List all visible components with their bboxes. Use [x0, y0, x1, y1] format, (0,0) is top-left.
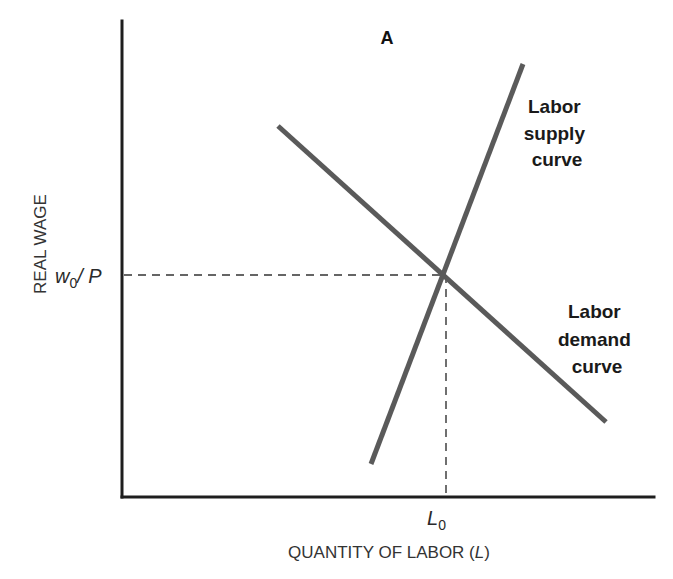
x-axis-label-close: ) [484, 543, 490, 562]
demand-label-line-1: Labor [568, 301, 621, 322]
labor-market-chart: A Labor supply curve Labor demand curve … [0, 0, 673, 579]
supply-label-line-3: curve [532, 149, 583, 170]
x-tick-subscript: 0 [438, 517, 446, 533]
demand-curve-label: Labor demand curve [558, 301, 636, 377]
x-axis-label-var: L [475, 543, 484, 562]
supply-label-line-1: Labor [528, 96, 581, 117]
x-axis-label: QUANTITY OF LABOR (L) [288, 543, 490, 562]
x-tick-L: L [427, 507, 438, 529]
panel-label: A [381, 28, 394, 48]
y-axis-label: REAL WAGE [31, 194, 50, 294]
supply-curve-label: Labor supply curve [524, 96, 591, 170]
x-axis-label-main: QUANTITY OF LABOR ( [288, 543, 475, 562]
y-tick-subscript: 0 [69, 275, 77, 291]
demand-label-line-3: curve [572, 356, 623, 377]
labor-supply-curve [371, 64, 523, 464]
supply-label-line-2: supply [524, 123, 586, 144]
demand-label-line-2: demand [558, 329, 631, 350]
y-tick-over-p: / P [75, 265, 102, 287]
y-tick-equilibrium-wage: w0/ P [55, 265, 102, 291]
x-tick-equilibrium-quantity: L0 [427, 507, 446, 533]
